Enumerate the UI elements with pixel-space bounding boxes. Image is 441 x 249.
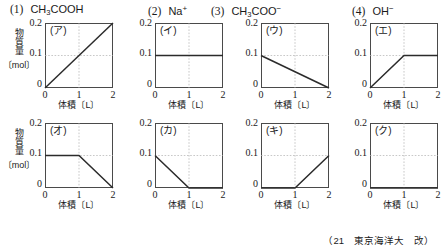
species-formula: Na+ <box>168 5 187 17</box>
y-axis-caption: 物質量〔mol〕 <box>2 28 36 70</box>
x-axis-tick: 2 <box>436 89 441 100</box>
chart-panel: (キ)0.20.10012体積〔L〕 <box>216 120 324 220</box>
panel-letter: (エ) <box>375 25 392 37</box>
x-axis-tick: 0 <box>43 189 48 200</box>
x-axis-tick: 1 <box>77 189 82 200</box>
species-formula: OH− <box>372 5 393 17</box>
x-axis-caption: 体積〔L〕 <box>45 200 113 210</box>
x-axis-tick: 0 <box>153 189 158 200</box>
x-axis-caption: 体積〔L〕 <box>370 200 438 210</box>
y-axis-tick: 0 <box>216 79 258 89</box>
x-axis-tick: 1 <box>187 89 192 100</box>
source-attribution: （21 東京海洋大 改） <box>323 235 434 246</box>
x-axis-caption: 体積〔L〕 <box>45 100 113 110</box>
x-axis-caption: 体積〔L〕 <box>370 100 438 110</box>
species-number: (3) <box>211 5 224 17</box>
chart-panel: (イ)0.20.10012体積〔L〕 <box>110 20 218 120</box>
species-number: (2) <box>148 5 161 17</box>
x-axis-caption: 体積〔L〕 <box>261 200 329 210</box>
panel-letter: (カ) <box>160 125 177 137</box>
x-axis-tick: 1 <box>77 89 82 100</box>
species-formula: CH3COOH <box>30 3 83 15</box>
x-axis-tick: 1 <box>293 89 298 100</box>
species-number: (1) <box>10 3 23 15</box>
y-axis-tick: 0.2 <box>216 118 258 128</box>
y-axis-tick: 0 <box>0 79 42 89</box>
x-axis-tick: 0 <box>368 189 373 200</box>
y-axis-tick: 0.1 <box>325 48 367 58</box>
y-axis-tick: 0.1 <box>110 48 152 58</box>
y-axis-tick: 0 <box>325 179 367 189</box>
chart-panel: (エ)0.20.10012体積〔L〕 <box>325 20 433 120</box>
y-axis-caption: 物質量〔mol〕 <box>2 128 36 170</box>
x-axis-caption: 体積〔L〕 <box>261 100 329 110</box>
data-curve <box>261 56 329 89</box>
y-axis-tick: 0.2 <box>325 118 367 128</box>
x-axis-tick: 1 <box>293 189 298 200</box>
x-axis-tick: 0 <box>259 89 264 100</box>
chart-panel: (ク)0.20.10012体積〔L〕 <box>325 120 433 220</box>
y-axis-tick: 0.1 <box>216 48 258 58</box>
x-axis-tick: 2 <box>436 189 441 200</box>
y-axis-tick: 0 <box>110 179 152 189</box>
y-axis-tick: 0.2 <box>325 18 367 28</box>
x-axis-tick: 1 <box>187 189 192 200</box>
panel-letter: (オ) <box>50 125 67 137</box>
y-axis-tick: 0.1 <box>216 148 258 158</box>
chart-panel: (ウ)0.20.10012体積〔L〕 <box>216 20 324 120</box>
y-axis-tick: 0.2 <box>0 18 42 28</box>
x-axis-tick: 0 <box>43 89 48 100</box>
chart-panel: (カ)0.20.10012体積〔L〕 <box>110 120 218 220</box>
x-axis-tick: 1 <box>402 189 407 200</box>
y-axis-tick: 0.2 <box>216 18 258 28</box>
species-formula: CH3COO− <box>231 5 281 17</box>
y-axis-unit: 〔mol〕 <box>2 60 36 70</box>
species-label-2: (2)Na+ <box>148 2 187 18</box>
y-axis-tick: 0 <box>110 79 152 89</box>
species-label-4: (4)OH− <box>352 2 394 18</box>
y-axis-caption-text: 物質量 <box>14 28 24 55</box>
x-axis-caption: 体積〔L〕 <box>155 100 223 110</box>
y-axis-tick: 0.1 <box>110 148 152 158</box>
x-axis-tick: 0 <box>153 89 158 100</box>
y-axis-tick: 0.2 <box>110 18 152 28</box>
y-axis-tick: 0.2 <box>0 118 42 128</box>
panel-letter: (ク) <box>375 125 392 137</box>
y-axis-tick: 0.1 <box>325 148 367 158</box>
species-number: (4) <box>352 5 365 17</box>
y-axis-tick: 0 <box>216 179 258 189</box>
x-axis-tick: 0 <box>259 189 264 200</box>
panel-letter: (ア) <box>50 25 67 37</box>
x-axis-tick: 0 <box>368 89 373 100</box>
panel-letter: (イ) <box>160 25 177 37</box>
chart-panel: (オ)0.20.10012体積〔L〕物質量〔mol〕 <box>0 120 108 220</box>
species-header-row: (1)CH3COOH(2)Na+(3)CH3COO−(4)OH− <box>0 2 440 18</box>
panel-letter: (ウ) <box>266 25 283 37</box>
y-axis-unit: 〔mol〕 <box>2 160 36 170</box>
y-axis-tick: 0 <box>325 79 367 89</box>
y-axis-tick: 0.2 <box>110 118 152 128</box>
x-axis-tick: 1 <box>402 89 407 100</box>
y-axis-tick: 0 <box>0 179 42 189</box>
chart-panel: (ア)0.20.10012体積〔L〕物質量〔mol〕 <box>0 20 108 120</box>
y-axis-caption-text: 物質量 <box>14 128 24 155</box>
x-axis-caption: 体積〔L〕 <box>155 200 223 210</box>
panel-letter: (キ) <box>266 125 283 137</box>
